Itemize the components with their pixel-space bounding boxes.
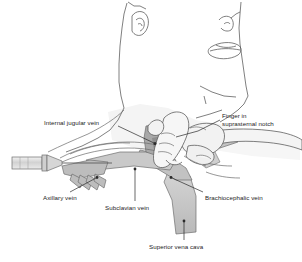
label-brachiocephalic-vein: Brachiocephalic vein	[205, 194, 263, 202]
anatomy-diagram-canvas	[0, 0, 302, 262]
label-subclavian-vein: Subclavian vein	[105, 204, 149, 212]
label-finger-in-suprasternal-notch: Finger in suprasternal notch	[222, 112, 274, 127]
label-internal-jugular-vein: Internal jugular vein	[44, 119, 99, 127]
label-axillary-vein: Axillary vein	[43, 194, 77, 202]
anatomy-illustration: Internal jugular vein Finger in supraste…	[0, 0, 302, 262]
label-superior-vena-cava: Superior vena cava	[149, 243, 203, 251]
